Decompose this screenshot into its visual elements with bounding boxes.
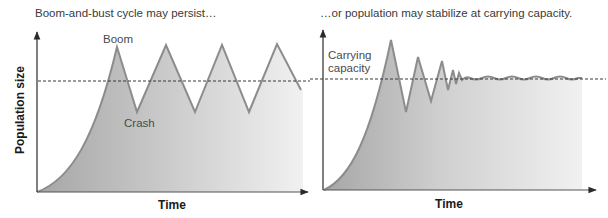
right-x-axis-label: Time	[435, 197, 463, 211]
boom-label: Boom	[103, 33, 133, 45]
y-axis-label: Population size	[13, 66, 27, 154]
right-panel-title: …or population may stabilize at carrying…	[320, 7, 572, 19]
carrying-capacity-label-line1: Carrying	[328, 49, 371, 61]
left-panel-boom-bust: Boom-and-bust cycle may persist… Boom Cr…	[13, 7, 310, 212]
carrying-capacity-label-line2: capacity	[328, 62, 370, 74]
population-growth-figure: Boom-and-bust cycle may persist… Boom Cr…	[0, 0, 608, 218]
crash-label: Crash	[124, 117, 155, 129]
left-panel-title: Boom-and-bust cycle may persist…	[35, 7, 217, 19]
right-panel-stabilize: …or population may stabilize at carrying…	[310, 7, 606, 211]
left-x-axis-label: Time	[158, 198, 186, 212]
left-population-area	[37, 44, 303, 192]
